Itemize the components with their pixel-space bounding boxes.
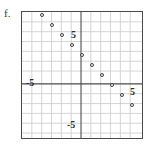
part-label: f. <box>4 8 10 19</box>
x-axis-tick-label-positive: 5 <box>130 87 135 97</box>
scatter-plot-figure: f. <box>0 0 160 151</box>
y-axis-tick-label-negative: -5 <box>67 120 75 130</box>
x-axis-tick-label-negative: -5 <box>26 78 34 88</box>
plot-area: 5 5 -5 -5 <box>21 11 143 139</box>
y-axis-tick-label-positive: 5 <box>71 30 76 40</box>
tick-labels: 5 5 -5 -5 <box>22 12 142 138</box>
